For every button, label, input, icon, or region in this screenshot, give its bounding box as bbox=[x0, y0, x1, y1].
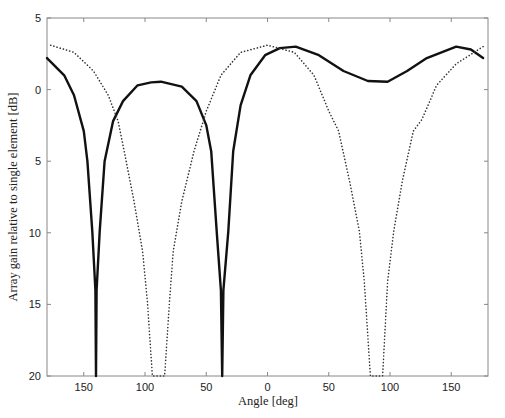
x-tick-label: 100 bbox=[136, 381, 154, 393]
y-tick-label: 20 bbox=[29, 370, 41, 382]
x-axis-label: Angle [deg] bbox=[238, 394, 298, 408]
y-tick-label: 0 bbox=[35, 84, 41, 96]
y-tick-label: 10 bbox=[29, 227, 41, 239]
x-tick-label: 50 bbox=[323, 381, 335, 393]
x-tick-label: 150 bbox=[75, 381, 93, 393]
x-tick-label: 0 bbox=[264, 381, 270, 393]
y-tick-label: 5 bbox=[35, 12, 41, 24]
y-tick-label: 15 bbox=[29, 298, 41, 310]
x-tick-label: 50 bbox=[200, 381, 212, 393]
plot-area: 15010050050100150 505101520 bbox=[29, 12, 488, 393]
chart-figure: 15010050050100150 505101520 Angle [deg] … bbox=[0, 0, 505, 418]
y-tick-label: 5 bbox=[35, 155, 41, 167]
y-axis-label: Array gain relative to single element [d… bbox=[6, 93, 20, 302]
x-tick-label: 150 bbox=[442, 381, 460, 393]
plot-frame bbox=[47, 18, 488, 376]
x-tick-label: 100 bbox=[381, 381, 399, 393]
